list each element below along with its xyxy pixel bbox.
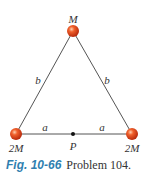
mass-top-label: M [68, 14, 77, 25]
side-b-left [16, 31, 73, 134]
point-p-dot [71, 132, 75, 136]
mass-bottom-left [10, 128, 22, 140]
figure-number: Fig. 10-66 [6, 158, 61, 172]
side-b-right [73, 31, 132, 134]
side-b-left-label: b [35, 75, 41, 86]
base-a-left-label: a [42, 122, 48, 133]
mass-top [67, 25, 79, 37]
base-a-right-label: a [99, 122, 105, 133]
three-mass-diagram: M 2M 2M P b b a a Fig. 10-66Problem 104. [0, 0, 147, 175]
point-p-label: P [70, 141, 77, 152]
mass-bottom-right [126, 128, 138, 140]
mass-bottom-left-label: 2M [9, 143, 24, 154]
mass-bottom-right-label: 2M [125, 143, 140, 154]
figure-caption: Fig. 10-66Problem 104. [6, 158, 131, 172]
problem-reference: Problem 104. [66, 158, 131, 172]
side-b-right-label: b [104, 75, 110, 86]
